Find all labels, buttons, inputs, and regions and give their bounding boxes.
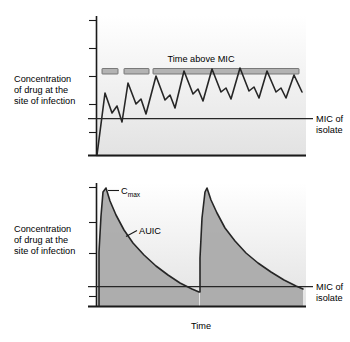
top-mic-label: MIC of isolate xyxy=(316,114,344,135)
top-mic-label-line-2: isolate xyxy=(316,125,343,135)
top-y-axis-label-line-2: of drug at the xyxy=(14,85,68,95)
bottom-mic-label: MIC of isolate xyxy=(316,282,344,303)
time-above-mic-annotation: Time above MIC xyxy=(167,54,234,64)
figure-canvas: Concentration of drug at the site of inf… xyxy=(0,0,350,342)
time-above-mic-bar-3 xyxy=(153,69,299,75)
bottom-y-ticks xyxy=(89,188,96,297)
bottom-y-axis-label: Concentration of drug at the site of inf… xyxy=(14,224,75,256)
cmax-label-subscript: max xyxy=(128,191,141,198)
bottom-panel: Concentration of drug at the site of inf… xyxy=(14,183,344,331)
top-y-ticks xyxy=(89,21,96,133)
bottom-y-axis-label-line-2: of drug at the xyxy=(14,235,68,245)
top-y-axis-label-line-1: Concentration xyxy=(14,74,71,84)
bottom-y-axis-label-line-1: Concentration xyxy=(14,224,71,234)
bottom-y-axis-label-line-3: site of infection xyxy=(14,246,75,256)
bottom-mic-label-line-1: MIC of xyxy=(316,282,344,292)
bottom-mic-label-line-2: isolate xyxy=(316,293,343,303)
time-above-mic-bars xyxy=(102,69,299,75)
top-panel: Concentration of drug at the site of inf… xyxy=(14,16,344,157)
auic-label: AUIC xyxy=(139,226,161,236)
time-above-mic-bar-1 xyxy=(102,69,118,75)
top-y-axis-label: Concentration of drug at the site of inf… xyxy=(14,74,75,106)
top-mic-label-line-1: MIC of xyxy=(316,114,344,124)
top-y-axis-label-line-3: site of infection xyxy=(14,96,75,106)
time-above-mic-bar-2 xyxy=(124,69,149,75)
pharmacodynamics-figure: Concentration of drug at the site of inf… xyxy=(0,0,350,342)
bottom-x-axis-label: Time xyxy=(191,321,211,331)
